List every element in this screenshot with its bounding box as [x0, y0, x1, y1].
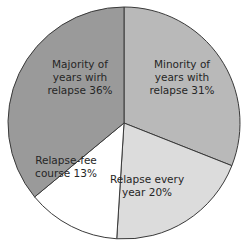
pie-chart: Minority ofyears withrelapse 31%Relapse …: [0, 0, 245, 241]
slice-label: Relapse-feecourse 13%: [35, 154, 97, 179]
slice-label: Minority ofyears withrelapse 31%: [149, 58, 214, 96]
pie-slices: [8, 7, 240, 239]
slice-label: Majority ofyears wirhrelapse 36%: [47, 58, 112, 96]
